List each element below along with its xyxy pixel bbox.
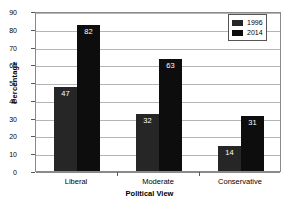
y-tick-mark [31,30,35,31]
bar-value-label: 31 [241,119,264,127]
legend-item[interactable]: 2014 [232,28,263,37]
bar[interactable]: 14 [218,146,241,171]
bar-chart: Percentage 478232631431 0102030405060708… [0,0,299,207]
legend-item[interactable]: 1996 [232,18,263,27]
y-tick-label: 0 [0,169,17,176]
bar[interactable]: 82 [77,25,100,171]
chart-legend: 1996 2014 [228,14,267,41]
y-tick-label: 70 [0,44,17,51]
y-tick-label: 20 [0,133,17,140]
y-tick-mark [31,154,35,155]
y-tick-mark [31,48,35,49]
y-tick-label: 10 [0,151,17,158]
y-tick-label: 60 [0,62,17,69]
gridline [36,172,280,173]
bar-value-label: 82 [77,28,100,36]
y-tick-mark [31,119,35,120]
x-tick-label: Moderate [142,177,174,186]
bar[interactable]: 63 [159,59,182,171]
y-tick-label: 40 [0,97,17,104]
x-tick-label: Liberal [65,177,88,186]
y-tick-mark [31,83,35,84]
y-tick-label: 50 [0,80,17,87]
y-tick-mark [31,136,35,137]
y-tick-mark [31,12,35,13]
bar-value-label: 14 [218,149,241,157]
bar-value-label: 63 [159,62,182,70]
legend-item-label: 1996 [247,19,263,26]
y-tick-mark [31,101,35,102]
x-tick-mark [199,172,200,176]
y-tick-label: 80 [0,26,17,33]
bar-group: 4782 [54,13,100,171]
y-tick-mark [31,172,35,173]
x-axis-title: Political View [0,189,299,198]
y-tick-label: 30 [0,115,17,122]
y-tick-label: 90 [0,9,17,16]
bar[interactable]: 31 [241,116,264,171]
legend-item-label: 2014 [247,29,263,36]
x-tick-mark [117,172,118,176]
x-tick-label: Conservative [218,177,262,186]
bar[interactable]: 32 [136,114,159,171]
bar-group: 3263 [136,13,182,171]
legend-swatch-icon [232,30,243,36]
y-tick-mark [31,65,35,66]
bar[interactable]: 47 [54,87,77,171]
legend-swatch-icon [232,20,243,26]
bar-value-label: 47 [54,90,77,98]
bar-value-label: 32 [136,117,159,125]
